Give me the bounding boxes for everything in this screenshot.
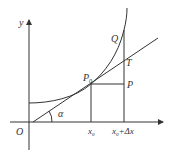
- tangent-line: [33, 38, 158, 122]
- angle-arc: [49, 111, 52, 122]
- x0-label: x0: [87, 126, 95, 137]
- function-curve: [29, 8, 127, 103]
- tangent-derivative-diagram: y O α P0 P Q T x0 x0+Δx: [0, 0, 173, 154]
- t-label: T: [126, 57, 133, 68]
- q-label: Q: [111, 33, 119, 44]
- angle-label: α: [58, 108, 64, 119]
- p-label: P: [126, 79, 133, 90]
- x0-dx-label: x0+Δx: [111, 126, 134, 137]
- origin-label: O: [16, 126, 23, 137]
- y-axis-label: y: [18, 17, 24, 28]
- p0-label: P0: [82, 72, 92, 84]
